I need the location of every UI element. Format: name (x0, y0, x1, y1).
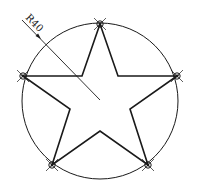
star-in-circle-diagram: R40 (0, 0, 197, 193)
vertex-marker-top-icon (94, 18, 106, 30)
circumscribed-circle (22, 23, 178, 179)
drawing-canvas: R40 (0, 0, 197, 193)
radius-dimension-label: R40 (24, 12, 46, 34)
